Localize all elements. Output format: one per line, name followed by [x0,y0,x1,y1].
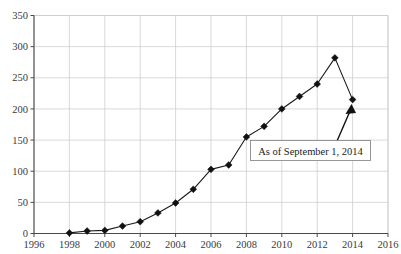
y-tick-label: 100 [12,166,28,177]
x-tick-label: 2010 [271,239,292,250]
chart-container: 050100150200250300350 199619982000200220… [0,0,401,254]
x-tick-label: 2008 [236,239,257,250]
annotation-label: As of September 1, 2014 [258,146,363,157]
y-tick-label: 250 [12,72,28,83]
y-tick-label: 350 [12,10,28,21]
x-tick-label: 2012 [307,239,328,250]
x-tick-label: 2014 [342,239,364,250]
x-tick-label: 2002 [130,239,151,250]
x-tick-label: 2004 [165,239,187,250]
x-tick-label: 2016 [378,239,399,250]
x-tick-label: 1998 [59,239,80,250]
x-tick-label: 2006 [201,239,222,250]
y-tick-label: 50 [18,197,29,208]
y-tick-label: 150 [12,135,28,146]
x-tick-label: 2000 [94,239,115,250]
chart-background [0,0,401,254]
x-tick-label: 1996 [24,239,45,250]
y-tick-label: 200 [12,104,28,115]
y-tick-label: 0 [23,228,28,239]
line-chart: 050100150200250300350 199619982000200220… [0,0,401,254]
y-tick-label: 300 [12,41,28,52]
